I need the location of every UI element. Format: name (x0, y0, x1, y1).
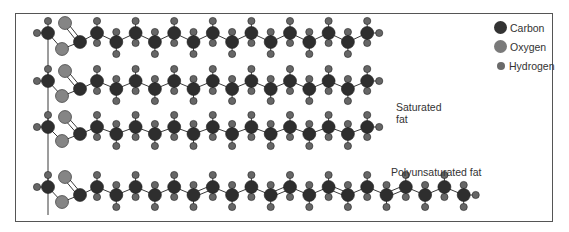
legend-carbon-label: Carbon (510, 22, 544, 34)
hydrogen-atom (33, 77, 40, 84)
hydrogen-atom (364, 193, 371, 200)
legend-oxygen-label: Oxygen (510, 41, 546, 53)
carbon-atom (361, 181, 374, 194)
legend-carbon: Carbon (494, 21, 544, 34)
hydrogen-atom (248, 171, 255, 178)
hydrogen-atom (286, 133, 293, 140)
fat-molecules-diagram (0, 0, 569, 232)
hydrogen-atom (248, 111, 255, 118)
hydrogen-atom (248, 17, 255, 24)
hydrogen-atom (93, 171, 100, 178)
hydrogen-atom (190, 142, 197, 149)
hydrogen-atom (344, 142, 351, 149)
hydrogen-atom (190, 181, 197, 188)
hydrogen-atom (460, 181, 467, 188)
carbon-atom (303, 36, 316, 49)
carbon-atom (168, 75, 181, 88)
carbon-atom (380, 189, 393, 202)
hydrogen-atom (113, 28, 120, 35)
hydrogen-atom (44, 111, 51, 118)
hydrogen-atom (190, 120, 197, 127)
carbon-atom (206, 181, 219, 194)
legend-hydrogen-label: Hydrogen (509, 60, 555, 72)
oxygen-atom (56, 43, 69, 56)
hydrogen-atom (267, 120, 274, 127)
carbon-atom (284, 181, 297, 194)
hydrogen-atom (344, 75, 351, 82)
hydrogen-atom (151, 28, 158, 35)
oxygen-atom (59, 171, 72, 184)
hydrogen-atom (229, 203, 236, 210)
hydrogen-atom (93, 133, 100, 140)
hydrogen-atom (113, 142, 120, 149)
hydrogen-atom (132, 39, 139, 46)
hydrogen-atom (93, 39, 100, 46)
hydrogen-atom (151, 50, 158, 57)
hydrogen-atom (441, 193, 448, 200)
carbon-atom (245, 181, 258, 194)
hydrogen-atom (344, 50, 351, 57)
carbon-icon (494, 21, 507, 34)
carbon-atom (110, 128, 123, 141)
hydrogen-atom (93, 17, 100, 24)
hydrogen-atom (306, 50, 313, 57)
carbon-atom (168, 27, 181, 40)
carbon-atom (129, 121, 142, 134)
carbon-atom (129, 75, 142, 88)
hydrogen-atom (113, 75, 120, 82)
hydrogen-atom (151, 203, 158, 210)
hydrogen-atom (286, 65, 293, 72)
carbon-atom (438, 181, 451, 194)
hydrogen-atom (229, 75, 236, 82)
hydrogen-atom (151, 181, 158, 188)
carbon-atom (129, 181, 142, 194)
hydrogen-atom (229, 50, 236, 57)
hydrogen-atom (93, 65, 100, 72)
hydrogen-atom (402, 193, 409, 200)
hydrogen-atom (422, 203, 429, 210)
hydrogen-atom (33, 183, 40, 190)
hydrogen-atom (325, 193, 332, 200)
carbon-atom (303, 128, 316, 141)
carbon-atom (148, 128, 161, 141)
hydrogen-atom (132, 17, 139, 24)
hydrogen-atom (171, 111, 178, 118)
hydrogen-atom (190, 203, 197, 210)
saturated-label-line2: fat (396, 113, 442, 125)
hydrogen-atom (267, 203, 274, 210)
hydrogen-atom (190, 50, 197, 57)
carbon-atom (42, 27, 55, 40)
carbon-atom (322, 75, 335, 88)
hydrogen-atom (171, 171, 178, 178)
carbon-atom (74, 36, 87, 49)
carbon-atom (457, 189, 470, 202)
hydrogen-atom (93, 111, 100, 118)
carbon-atom (322, 181, 335, 194)
hydrogen-atom (383, 203, 390, 210)
hydrogen-atom (306, 181, 313, 188)
hydrogen-atom (132, 193, 139, 200)
hydrogen-atom (248, 193, 255, 200)
hydrogen-atom (286, 193, 293, 200)
carbon-atom (264, 36, 277, 49)
hydrogen-atom (248, 87, 255, 94)
legend-oxygen: Oxygen (494, 40, 546, 53)
hydrogen-atom (364, 111, 371, 118)
hydrogen-atom (364, 133, 371, 140)
hydrogen-atom (325, 39, 332, 46)
hydrogen-atom (325, 171, 332, 178)
hydrogen-atom (364, 65, 371, 72)
hydrogen-atom (267, 142, 274, 149)
oxygen-atom (59, 65, 72, 78)
legend-hydrogen: Hydrogen (497, 60, 555, 72)
hydrogen-atom (267, 50, 274, 57)
hydrogen-atom (132, 133, 139, 140)
hydrogen-atom (248, 65, 255, 72)
carbon-atom (341, 128, 354, 141)
hydrogen-atom (306, 97, 313, 104)
hydrogen-atom (44, 65, 51, 72)
hydrogen-atom (286, 111, 293, 118)
carbon-atom (187, 36, 200, 49)
hydrogen-atom (190, 97, 197, 104)
carbon-atom (303, 189, 316, 202)
